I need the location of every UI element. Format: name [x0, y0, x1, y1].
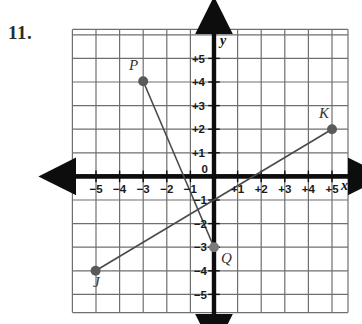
point-label-J: J [93, 274, 101, 290]
y-tick-label-+1: +1 [192, 147, 206, 159]
y-axis-label: y [218, 33, 227, 48]
x-tick-label--5: −5 [89, 183, 103, 195]
x-tick-label--4: −4 [113, 183, 127, 195]
coordinate-plane-svg: P K Q J −5 −4 −3 −2 −1 +1 +2 +3 +4 +5 +5… [0, 0, 362, 324]
point-P [138, 76, 148, 86]
y-tick-label-+4: +4 [192, 76, 206, 88]
point-label-K: K [318, 105, 330, 121]
y-tick-label--5: −5 [194, 289, 208, 301]
x-tick-label-+1: +1 [231, 183, 245, 195]
y-tick-label--1: −1 [194, 194, 208, 206]
x-tick-label-+3: +3 [278, 183, 291, 195]
point-label-Q: Q [221, 250, 232, 266]
y-tick-label--3: −3 [194, 241, 207, 253]
point-label-P: P [128, 57, 138, 73]
point-K [327, 124, 337, 134]
x-axis-label: x [340, 178, 348, 193]
y-tick-label--2: −2 [194, 218, 207, 230]
x-tick-label-+2: +2 [255, 183, 268, 195]
y-tick-label-+2: +2 [192, 123, 205, 135]
y-tick-label--4: −4 [194, 265, 208, 277]
x-tick-label--3: −3 [137, 183, 150, 195]
x-tick-label--2: −2 [160, 183, 173, 195]
origin-label: 0 [202, 163, 208, 175]
worksheet-problem: 11. [0, 0, 362, 324]
y-tick-label-+5: +5 [192, 53, 206, 65]
point-Q [209, 242, 219, 252]
coordinate-grid-figure: P K Q J −5 −4 −3 −2 −1 +1 +2 +3 +4 +5 +5… [0, 0, 362, 324]
y-tick-label-+3: +3 [192, 100, 205, 112]
x-tick-label--1: −1 [184, 183, 198, 195]
x-tick-label-+4: +4 [302, 183, 316, 195]
x-tick-label-+5: +5 [325, 183, 339, 195]
